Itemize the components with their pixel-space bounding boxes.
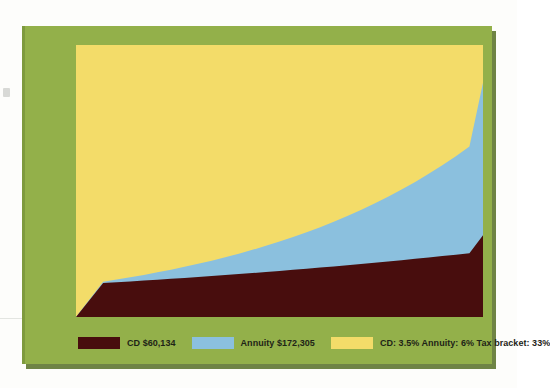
chart-card: 050,000100,000150,000$200,000 0510152025… — [22, 26, 492, 364]
legend-item-assumptions: CD: 3.5% Annuity: 6% Tax bracket: 33% — [331, 337, 550, 349]
legend-item-annuity: Annuity $172,305 — [192, 337, 315, 349]
legend-item-cd: CD $60,134 — [78, 337, 176, 349]
legend-swatch-annuity — [192, 337, 234, 349]
legend-swatch-cd — [78, 337, 120, 349]
legend-label-assumptions: CD: 3.5% Annuity: 6% Tax bracket: 33% — [380, 338, 550, 348]
area-series-svg — [76, 45, 483, 317]
plot-area: 050,000100,000150,000$200,000 0510152025… — [76, 45, 483, 317]
chart-legend: CD $60,134 Annuity $172,305 CD: 3.5% Ann… — [78, 334, 482, 351]
scan-artifact-mark — [3, 88, 10, 97]
legend-swatch-assumptions — [331, 337, 373, 349]
legend-label-cd: CD $60,134 — [127, 338, 176, 348]
legend-label-annuity: Annuity $172,305 — [241, 338, 315, 348]
